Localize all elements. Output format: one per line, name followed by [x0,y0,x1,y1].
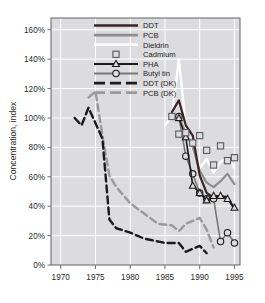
data-point-square-open [217,143,223,149]
data-point-circle-open [113,70,119,76]
x-axis-tick-label: 1975 [86,273,105,282]
data-point-square-open [210,162,216,168]
legend-label-pcb: PCB [143,31,159,40]
legend-label-cadmium: Cadmium [143,50,176,59]
y-axis-tick-label: 160% [24,26,45,35]
y-axis-tick-label: 80% [29,143,45,152]
concentration-index-line-chart: 0%20%40%60%80%100%120%140%160% 197019751… [0,0,265,303]
x-axis-tick-label: 1995 [225,273,244,282]
data-point-square-open [204,147,210,153]
data-point-square-open [231,155,237,161]
y-axis-tick-label: 0% [33,261,45,270]
y-axis-tick-label: 120% [24,85,45,94]
data-point-square-open [224,158,230,164]
x-axis-tick-label: 1980 [121,273,140,282]
data-point-square-open [197,133,203,139]
data-point-square-open [190,140,196,146]
data-point-square-open [176,131,182,137]
data-point-circle-open [231,240,237,246]
data-point-circle-open [224,229,230,235]
legend-label-butyl-tin: Butyl tin [143,69,170,78]
x-axis-tick-label: 1985 [156,273,175,282]
data-point-square-open [183,130,189,136]
legend-label-pha: PHA [143,60,160,69]
y-axis-tick-label: 140% [24,55,45,64]
x-axis-tick-label: 1990 [191,273,210,282]
legend-label-ddt-dk: DDT (DK) [143,79,177,88]
y-axis-tick-label: 60% [29,173,45,182]
y-axis-tick-label: 40% [29,202,45,211]
x-axis-tick-label: 1970 [52,273,71,282]
chart-figure: 0%20%40%60%80%100%120%140%160% 197019751… [0,0,265,303]
data-point-square-open [113,51,119,57]
legend-label-ddt: DDT [143,21,159,30]
y-axis-title: Concentration, index [8,101,18,181]
data-point-circle-open [217,238,223,244]
y-axis-tick-label: 100% [24,114,45,123]
y-axis-tick-label: 20% [29,232,45,241]
legend-label-pcb-dk: PCB (DK) [143,89,177,98]
legend-label-dieldrin: Dieldrin [143,41,169,50]
data-point-square-open [169,113,175,119]
